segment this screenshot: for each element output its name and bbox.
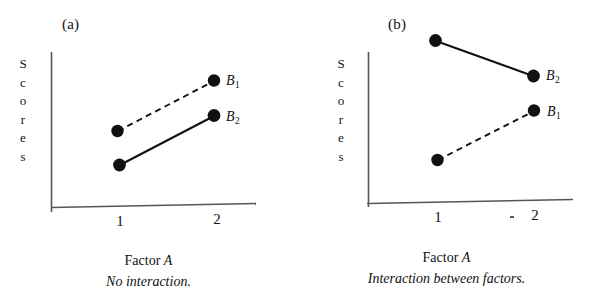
- panel-a-point-B2-x1: [113, 159, 126, 172]
- panel-b-caption: Interaction between factors.: [298, 272, 595, 286]
- panel-b-stray-mark: [510, 216, 514, 218]
- interaction-plots-figure: (a) S c o r e s B1 B: [0, 0, 595, 302]
- panel-a-series-label-B1: B1: [226, 74, 239, 89]
- panel-b-series-B1-line: [438, 111, 534, 160]
- panel-a-series-label-B2: B2: [226, 110, 239, 125]
- panel-b-x-tick-2: 2: [525, 208, 545, 223]
- series-label-base: B: [226, 73, 235, 88]
- panel-a-point-B1-x1: [111, 125, 123, 137]
- panel-b-point-B2-x2: [527, 70, 540, 83]
- panel-b-series-B2-line: [436, 41, 533, 76]
- panel-a-point-B1-x2: [208, 74, 220, 86]
- series-label-sub: 2: [235, 116, 240, 126]
- series-label-base: B: [226, 109, 235, 124]
- panel-a-point-B2-x2: [208, 109, 221, 122]
- panel-b-point-B1-x1: [431, 154, 443, 166]
- panel-b-point-B2-x1: [429, 34, 442, 47]
- panel-a-x-tick-2: 2: [207, 212, 227, 227]
- panel-a-caption: No interaction.: [0, 275, 297, 289]
- series-label-sub: 1: [235, 80, 240, 90]
- panel-a-series-B2-line: [120, 116, 214, 165]
- series-label-base: B: [546, 68, 555, 83]
- panel-b: (b) S c o r e s B2 B: [298, 0, 595, 302]
- panel-a-x-axis-title: Factor A: [0, 254, 297, 268]
- x-axis-title-variable: A: [462, 250, 471, 265]
- panel-b-series-label-B1: B1: [547, 105, 560, 120]
- panel-b-x-tick-1: 1: [428, 210, 448, 225]
- panel-b-point-B1-x2: [528, 104, 540, 116]
- panel-a-x-tick-1: 1: [110, 214, 130, 229]
- series-label-sub: 1: [556, 111, 561, 121]
- panel-a-x-axis: [51, 204, 256, 208]
- x-axis-title-prefix: Factor: [423, 250, 459, 265]
- series-label-sub: 2: [555, 75, 560, 85]
- x-axis-title-variable: A: [164, 253, 173, 268]
- x-axis-title-prefix: Factor: [125, 253, 161, 268]
- series-label-base: B: [547, 104, 556, 119]
- panel-a: (a) S c o r e s B1 B: [0, 0, 297, 302]
- panel-b-x-axis: [367, 200, 573, 204]
- panel-b-x-axis-title: Factor A: [298, 251, 595, 265]
- panel-b-series-label-B2: B2: [546, 69, 559, 84]
